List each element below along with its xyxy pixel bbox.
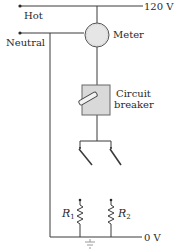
hot-terminal: [18, 4, 21, 7]
meter-label: Meter: [113, 29, 144, 40]
switch-1: [79, 149, 92, 165]
r2-label: R2: [117, 207, 131, 221]
ground-voltage-label: 0 V: [144, 232, 162, 243]
resistor-r1: [77, 202, 83, 237]
meter-icon: [85, 23, 109, 47]
hot-label: Hot: [24, 10, 43, 21]
neutral-terminal: [18, 31, 21, 34]
resistor-r2: [108, 202, 114, 237]
switch-2-contact: [110, 199, 113, 202]
breaker-label-line1: Circuit: [116, 88, 151, 99]
switch-1-contact: [79, 199, 82, 202]
hot-voltage-label: 120 V: [144, 1, 174, 12]
circuit-diagram: Hot Neutral 120 V Meter Circuit breaker …: [0, 0, 182, 252]
neutral-label: Neutral: [6, 37, 45, 48]
breaker-label-line2: breaker: [114, 99, 154, 110]
switch-2: [110, 149, 121, 165]
r1-label: R1: [61, 207, 75, 221]
ground-icon: [85, 239, 95, 248]
